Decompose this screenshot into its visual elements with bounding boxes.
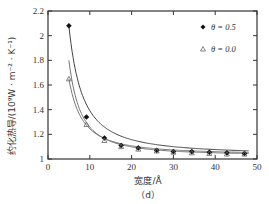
legend-label: θ = 0.5 [211, 22, 236, 32]
y-tick-label: 2.2 [33, 6, 44, 16]
x-tick-label: 30 [169, 162, 179, 172]
x-tick-label: 50 [253, 162, 263, 172]
x-tick-label: 10 [85, 162, 95, 172]
y-tick-label: 1.6 [33, 80, 45, 90]
diamond-icon [201, 25, 206, 30]
legend: θ = 0.5θ = 0.0 [201, 22, 237, 54]
y-tick-label: 1.4 [33, 105, 45, 115]
x-tick-label: 0 [46, 162, 51, 172]
y-tick-label: 1 [40, 154, 45, 164]
x-tick-label: 20 [127, 162, 137, 172]
y-tick-label: 2 [40, 31, 45, 41]
x-tick-label: 40 [211, 162, 221, 172]
triangle-icon [201, 47, 206, 52]
y-axis-label: 约化热导/(10⁹W · m⁻² · K⁻¹) [6, 37, 17, 156]
data-points [66, 23, 247, 156]
chart: 0102030405011.21.41.61.822.2 θ = 0.5θ = … [0, 0, 269, 204]
legend-label: θ = 0.0 [211, 44, 237, 54]
diamond-marker [66, 23, 72, 29]
figure-caption: （d） [136, 190, 160, 200]
x-axis-label: 宽度/Å [134, 175, 162, 186]
y-tick-label: 1.2 [33, 129, 44, 139]
y-tick-label: 1.8 [33, 55, 45, 65]
